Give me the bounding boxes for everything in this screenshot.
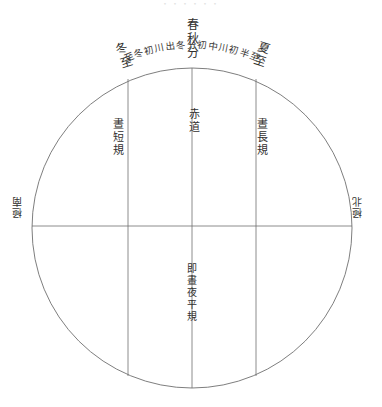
label-short-day-circle: 晝短規 — [110, 118, 124, 157]
label-long-day-circle: 晝長規 — [254, 118, 268, 157]
label-equal-day-night-circle: 即晝夜平規 — [184, 263, 197, 323]
label-equator: 赤道 — [186, 108, 200, 134]
celestial-circles-figure: ・・・・・・ 至冬初川出冬分初中川初半至 春秋分 冬至 夏至 晝短規 赤道 晝長… — [0, 0, 382, 407]
label-south-pole: 極南 — [12, 196, 25, 218]
label-north-pole: 極北 — [352, 196, 365, 218]
label-spring-autumn-equinox: 春秋分 — [183, 18, 199, 60]
diagram-canvas — [0, 0, 382, 407]
